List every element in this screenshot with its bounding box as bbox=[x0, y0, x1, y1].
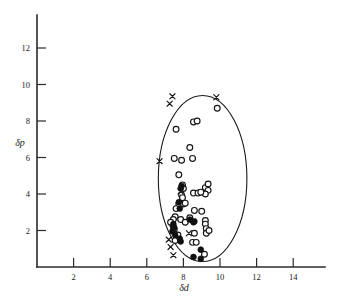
data-point-open bbox=[205, 181, 211, 187]
data-point-filled bbox=[191, 219, 197, 225]
y-tick-label: 8 bbox=[26, 116, 30, 126]
y-tick-label: 2 bbox=[26, 226, 30, 236]
data-point-open bbox=[182, 200, 188, 206]
plot-canvas: 24681012 2468101214 δp δd bbox=[0, 0, 339, 307]
scatter-plot-figure: 24681012 2468101214 δp δd bbox=[0, 0, 339, 307]
data-point-open bbox=[190, 156, 196, 162]
data-point-cross bbox=[167, 101, 172, 106]
x-tick-label: 8 bbox=[181, 272, 185, 282]
axes-group bbox=[37, 15, 325, 267]
data-point-filled bbox=[178, 239, 184, 245]
data-point-cross bbox=[186, 231, 191, 236]
data-point-cross bbox=[166, 237, 171, 242]
data-point-filled bbox=[191, 254, 197, 260]
data-point-filled bbox=[198, 256, 204, 262]
y-tick-label: 6 bbox=[26, 153, 30, 163]
data-point-open bbox=[171, 156, 177, 162]
data-point-open bbox=[191, 208, 197, 214]
y-tick-label: 4 bbox=[26, 189, 31, 199]
y-tick-label: 10 bbox=[22, 80, 31, 90]
data-point-filled bbox=[198, 247, 204, 253]
x-tick-label: 4 bbox=[108, 272, 113, 282]
data-point-open bbox=[194, 118, 200, 124]
y-axis-title: δp bbox=[15, 137, 25, 148]
y-tick-label: 12 bbox=[22, 43, 31, 53]
data-point-open bbox=[187, 145, 193, 151]
data-point-open bbox=[214, 105, 220, 111]
x-tick-label: 6 bbox=[145, 272, 149, 282]
data-point-open bbox=[179, 157, 185, 163]
data-point-open bbox=[176, 172, 182, 178]
x-tick-label: 2 bbox=[71, 272, 75, 282]
data-point-open bbox=[191, 230, 197, 236]
data-point-open bbox=[199, 208, 205, 214]
data-point-open bbox=[173, 126, 179, 132]
data-point-open bbox=[198, 189, 204, 195]
data-point-filled bbox=[177, 206, 183, 212]
x-axis-ticks: 2468101214 bbox=[71, 258, 298, 282]
y-axis-ticks: 24681012 bbox=[22, 43, 47, 236]
data-point-cross bbox=[168, 244, 173, 249]
data-point-open bbox=[206, 228, 212, 234]
data-point-open bbox=[193, 239, 199, 245]
data-point-cross bbox=[170, 94, 175, 99]
x-tick-label: 12 bbox=[252, 272, 261, 282]
x-tick-label: 14 bbox=[289, 272, 298, 282]
x-tick-label: 10 bbox=[216, 272, 225, 282]
data-point-filled bbox=[176, 199, 182, 205]
x-axis-title: δd bbox=[179, 282, 190, 293]
data-point-cross bbox=[171, 253, 176, 258]
